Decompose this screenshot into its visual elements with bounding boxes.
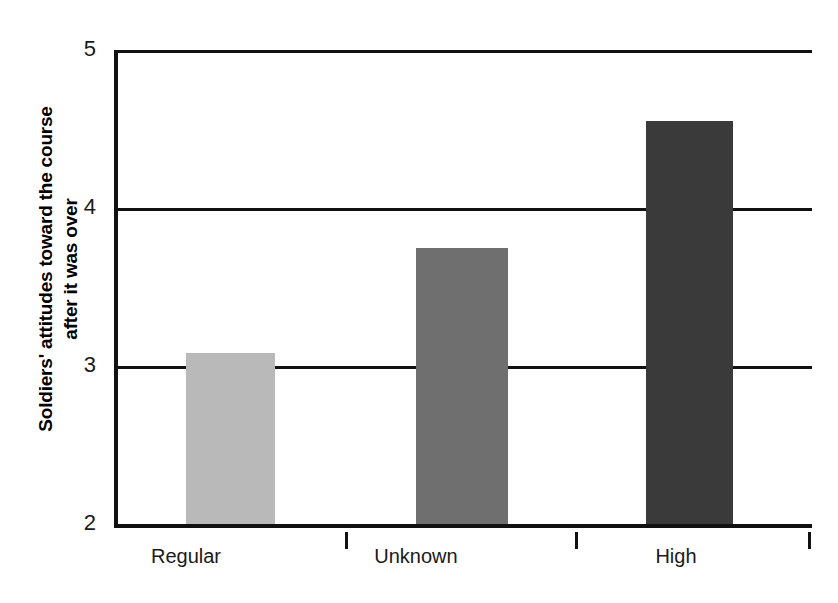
x-label-regular: Regular	[116, 545, 256, 568]
y-tick-label-3: 3	[68, 352, 96, 378]
bar-regular	[186, 353, 275, 524]
x-axis-tick-3	[808, 532, 811, 549]
bar-chart: Soldiers' attitudes toward the course af…	[0, 0, 838, 603]
y-tick-label-5: 5	[68, 36, 96, 62]
y-tick-label-4: 4	[68, 194, 96, 220]
y-tick-label-2: 2	[68, 510, 96, 536]
y-axis-line	[114, 50, 118, 528]
x-axis-line	[114, 524, 812, 528]
x-axis-tick-2	[575, 532, 578, 549]
x-label-unknown: Unknown	[346, 545, 486, 568]
bar-unknown	[416, 248, 508, 525]
plot-area	[114, 50, 812, 524]
y-axis-tick-labels: 5 4 3 2	[62, 0, 96, 603]
gridline-5	[114, 50, 812, 53]
bar-high	[646, 121, 733, 524]
x-label-high: High	[606, 545, 746, 568]
